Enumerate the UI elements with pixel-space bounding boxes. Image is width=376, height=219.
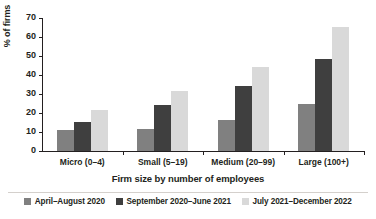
y-axis-tick: 10 <box>0 132 42 133</box>
x-tick-mark <box>123 151 124 155</box>
bar <box>298 104 315 151</box>
plot-area <box>42 18 364 151</box>
x-axis-category-label: Small (5–19) <box>123 157 204 167</box>
legend-swatch-icon <box>116 198 123 205</box>
y-tick-label: 70 <box>26 12 36 23</box>
y-tick-label: 0 <box>31 145 36 156</box>
bar-group <box>298 18 349 151</box>
legend-label: July 2021–December 2022 <box>253 197 352 206</box>
y-tick-label: 30 <box>26 88 36 99</box>
legend-divider <box>8 192 368 193</box>
chart-legend: April–August 2020September 2020–June 202… <box>0 197 376 206</box>
x-axis-category-label: Medium (20–99) <box>203 157 284 167</box>
bar-chart: % of firms 010203040506070 Micro (0–4)Sm… <box>0 0 376 219</box>
y-axis-tick: 20 <box>0 113 42 114</box>
legend-label: April–August 2020 <box>35 197 105 206</box>
x-tick-mark <box>284 151 285 155</box>
bar <box>91 110 108 151</box>
legend-swatch-icon <box>242 198 249 205</box>
y-tick-label: 60 <box>26 31 36 42</box>
bar <box>154 105 171 151</box>
legend-label: September 2020–June 2021 <box>126 197 231 206</box>
bar-group <box>57 18 108 151</box>
x-axis-category-label: Large (100+) <box>284 157 365 167</box>
y-tick-label: 20 <box>26 107 36 118</box>
bar <box>315 59 332 151</box>
y-tick-mark <box>39 151 42 152</box>
y-tick-label: 10 <box>26 126 36 137</box>
legend-item: July 2021–December 2022 <box>242 197 352 206</box>
legend-swatch-icon <box>24 198 31 205</box>
y-axis-tick: 60 <box>0 37 42 38</box>
y-axis-tick: 0 <box>0 151 42 152</box>
x-tick-mark <box>203 151 204 155</box>
bar-group <box>137 18 188 151</box>
legend-item: April–August 2020 <box>24 197 105 206</box>
y-axis-tick: 50 <box>0 56 42 57</box>
y-axis-tick: 40 <box>0 75 42 76</box>
bar <box>235 86 252 151</box>
bar <box>252 67 269 151</box>
bar <box>171 91 188 151</box>
x-axis-title: Firm size by number of employees <box>0 173 376 184</box>
x-tick-mark <box>364 151 365 155</box>
bar <box>137 129 154 151</box>
bar-group <box>218 18 269 151</box>
x-axis-category-label: Micro (0–4) <box>42 157 123 167</box>
y-tick-label: 40 <box>26 69 36 80</box>
bar <box>218 120 235 151</box>
legend-item: September 2020–June 2021 <box>116 197 231 206</box>
y-axis-tick: 30 <box>0 94 42 95</box>
bar <box>57 130 74 151</box>
bar <box>332 27 349 151</box>
bar <box>74 122 91 151</box>
y-axis-tick: 70 <box>0 18 42 19</box>
y-tick-label: 50 <box>26 50 36 61</box>
